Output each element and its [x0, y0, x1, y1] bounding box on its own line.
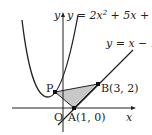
triangle-pab-shaded — [55, 84, 98, 108]
origin-label: O — [54, 111, 63, 124]
y-axis-arrow-icon — [61, 12, 65, 17]
x-axis-label: x — [126, 111, 133, 124]
point-p-marker — [53, 90, 57, 94]
point-b-marker — [96, 82, 100, 86]
diagram-canvas: y y = 2x2 + 5x + 4 y = x − 1 P B(3, 2) O… — [0, 0, 152, 135]
line-label: y = x − 1 — [105, 37, 152, 50]
x-axis-arrow-icon — [131, 106, 136, 110]
point-a-marker — [72, 106, 76, 110]
y-axis-label: y — [53, 9, 61, 22]
point-b-label: B(3, 2) — [101, 82, 139, 95]
point-a-label: A(1, 0) — [67, 111, 106, 124]
point-p-label: P — [46, 82, 54, 95]
parabola-label: y = 2x2 + 5x + 4 — [66, 9, 152, 22]
